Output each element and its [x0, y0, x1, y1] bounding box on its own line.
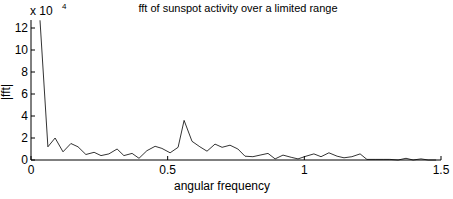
x-axis-label: angular frequency	[174, 179, 270, 193]
fft-line	[40, 20, 436, 160]
x-tick-label: 0.5	[159, 163, 176, 177]
chart-title: fft of sunspot activity over a limited r…	[138, 2, 337, 14]
y-tick-label: 12	[15, 21, 29, 35]
y-tick-label: 10	[15, 43, 29, 57]
x-tick-label: 1	[301, 163, 308, 177]
chart: fft of sunspot activity over a limited r…	[0, 0, 453, 199]
y-ticks: 024681012	[15, 21, 35, 167]
y-tick-label: 4	[21, 109, 28, 123]
y-tick-label: 6	[21, 87, 28, 101]
y-multiplier-exponent: 4	[62, 2, 67, 11]
x-tick-label: 0	[28, 163, 35, 177]
x-tick-label: 1.5	[433, 163, 450, 177]
y-tick-label: 8	[21, 65, 28, 79]
y-multiplier: x 10 4	[30, 2, 67, 18]
axes	[31, 20, 441, 160]
y-axis-label: |fft|	[0, 84, 13, 100]
y-tick-label: 2	[21, 131, 28, 145]
y-multiplier-base: x 10	[30, 4, 53, 18]
